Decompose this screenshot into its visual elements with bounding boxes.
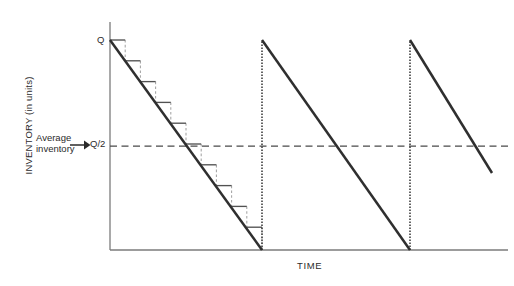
sawtooth-depletion-group [110, 40, 492, 250]
x-axis-label: TIME [297, 261, 322, 272]
y-axis-label: INVENTORY (in units) [24, 50, 35, 200]
depletion-segment-cycle-1 [110, 40, 262, 250]
inventory-sawtooth-figure: INVENTORY (in units) TIME Q Q/2 Averagei… [0, 0, 514, 286]
average-inventory-caption: Averageinventory [36, 133, 75, 155]
average-inventory-caption-line-2: inventory [36, 143, 75, 154]
chart-canvas [0, 0, 514, 286]
axes-group [110, 22, 508, 250]
average-inventory-value-label: Q/2 [90, 139, 105, 150]
depletion-segment-cycle-3 [410, 40, 492, 173]
average-inventory-caption-line-1: Average [36, 132, 71, 143]
depletion-segment-cycle-2 [262, 40, 410, 250]
order-quantity-label: Q [97, 35, 104, 46]
